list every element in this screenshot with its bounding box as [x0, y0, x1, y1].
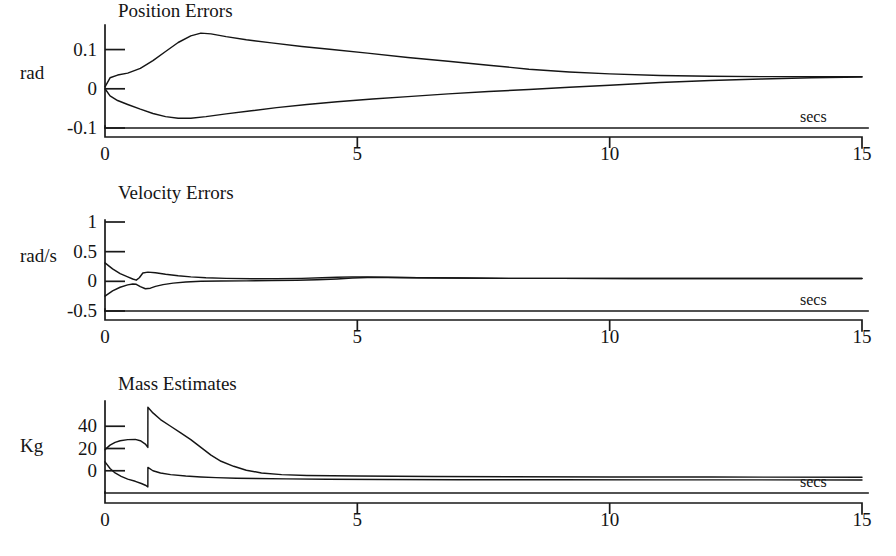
panel-position-errors: Position Errorsrad0.10-0.1051015secs	[20, 0, 872, 164]
x-axis-line-position-errors	[105, 126, 862, 148]
y-axis-name-velocity-errors: rad/s	[20, 245, 57, 266]
x-tick-label-velocity-errors-3: 15	[853, 326, 872, 347]
x-tick-label-position-errors-0: 0	[100, 143, 110, 164]
x-tick-label-mass-estimates-0: 0	[100, 509, 110, 530]
x-tick-label-position-errors-2: 10	[600, 143, 619, 164]
y-tick-label-mass-estimates-2: 0	[88, 460, 98, 481]
x-axis-units-velocity-errors: secs	[800, 291, 827, 308]
y-tick-label-position-errors-2: -0.1	[67, 117, 97, 138]
panel-velocity-errors: Velocity Errorsrad/s10.50-0.5051015secs	[20, 182, 872, 347]
y-tick-label-velocity-errors-2: 0	[88, 270, 98, 291]
three-panel-time-series-figure: Position Errorsrad0.10-0.1051015secsVelo…	[0, 0, 896, 556]
curve-mass-estimates-mass-estimate-1	[105, 407, 862, 477]
panel-mass-estimates: Mass EstimatesKg40200051015secs	[20, 373, 872, 530]
x-axis-units-mass-estimates: secs	[800, 473, 827, 490]
x-tick-label-mass-estimates-1: 5	[353, 509, 363, 530]
curve-position-errors-error-lower	[105, 77, 862, 118]
panel-title-mass-estimates: Mass Estimates	[118, 373, 237, 394]
y-tick-label-velocity-errors-3: -0.5	[67, 300, 97, 321]
curve-mass-estimates-mass-estimate-2	[105, 462, 862, 487]
y-axis-name-position-errors: rad	[20, 62, 45, 83]
x-axis-units-position-errors: secs	[800, 108, 827, 125]
panel-title-position-errors: Position Errors	[118, 0, 233, 21]
y-axis-name-mass-estimates: Kg	[20, 435, 44, 456]
y-tick-label-position-errors-1: 0	[88, 78, 98, 99]
x-tick-label-velocity-errors-2: 10	[600, 326, 619, 347]
panel-title-velocity-errors: Velocity Errors	[118, 182, 234, 203]
x-tick-label-velocity-errors-0: 0	[100, 326, 110, 347]
x-axis-line-mass-estimates	[105, 492, 862, 514]
y-tick-label-position-errors-0: 0.1	[73, 39, 97, 60]
x-tick-label-position-errors-3: 15	[853, 143, 872, 164]
x-tick-label-position-errors-1: 5	[353, 143, 363, 164]
x-tick-label-mass-estimates-2: 10	[600, 509, 619, 530]
y-tick-label-mass-estimates-1: 20	[78, 438, 97, 459]
y-tick-label-velocity-errors-1: 0.5	[73, 241, 97, 262]
x-tick-label-mass-estimates-3: 15	[853, 509, 872, 530]
curve-velocity-errors-vel-lower	[105, 277, 862, 296]
y-tick-label-mass-estimates-0: 40	[78, 415, 97, 436]
x-tick-label-velocity-errors-1: 5	[353, 326, 363, 347]
y-tick-label-velocity-errors-0: 1	[88, 211, 98, 232]
x-axis-line-velocity-errors	[105, 309, 862, 331]
figure-root: Position Errorsrad0.10-0.1051015secsVelo…	[0, 0, 896, 556]
